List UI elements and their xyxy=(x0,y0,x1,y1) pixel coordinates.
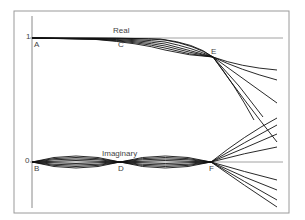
point-label-e: E xyxy=(211,48,216,56)
imaginary-curves xyxy=(32,118,277,207)
series-label-imaginary: Imaginary xyxy=(102,150,137,158)
tick-label-one: 1 xyxy=(26,33,30,41)
real-curves xyxy=(32,38,277,142)
point-label-c: C xyxy=(118,41,124,49)
diagram-canvas xyxy=(0,0,305,220)
point-label-b: B xyxy=(34,165,39,173)
point-label-d: D xyxy=(118,165,124,173)
point-label-a: A xyxy=(34,41,39,49)
series-label-real: Real xyxy=(113,27,129,35)
frame-border xyxy=(14,11,289,213)
tick-label-zero: 0 xyxy=(25,157,29,165)
point-label-f: F xyxy=(209,165,214,173)
